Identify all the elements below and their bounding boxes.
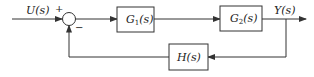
summing-junction bbox=[63, 13, 76, 26]
block-diagram: U(s) + − G1(s) G2(s) Y(s) bbox=[0, 0, 314, 77]
g1-label-arg: (s) bbox=[139, 13, 153, 26]
h-label: H(s) bbox=[176, 51, 201, 64]
g2-block: G2(s) bbox=[220, 6, 262, 31]
g2-label-arg: (s) bbox=[243, 12, 257, 25]
g2-label-main: G bbox=[230, 12, 239, 25]
g1-label-main: G bbox=[126, 13, 135, 26]
svg-text:G1(s): G1(s) bbox=[126, 13, 154, 27]
output-label: Y(s) bbox=[274, 4, 296, 17]
h-block: H(s) bbox=[169, 44, 208, 70]
svg-text:G2(s): G2(s) bbox=[230, 12, 258, 26]
g1-block: G1(s) bbox=[117, 7, 154, 32]
minus-sign: − bbox=[75, 22, 83, 33]
plus-sign: + bbox=[55, 3, 63, 14]
input-label: U(s) bbox=[26, 4, 50, 17]
